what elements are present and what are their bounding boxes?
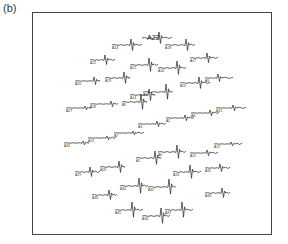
electrode-trace: A9 [205,74,233,83]
electrode-trace: A19 [105,72,130,83]
electrode-label: A14 [130,96,136,100]
electrode-label: A30 [120,187,126,191]
electrode-label: A18 [165,46,171,50]
electrode-label: A10 [180,84,186,88]
electrode-label: A29 [75,173,81,177]
electrode-trace: A31 [205,164,230,173]
electrode-label: A22 [90,61,96,65]
electrode-label: A12 [214,145,220,149]
electrode-label: A5 [122,103,126,107]
electrode-trace: A12 [214,142,242,149]
electrode-trace: A28 [100,161,125,172]
electrode-label: A2 [166,119,170,123]
electrode-trace: A23 [142,32,172,43]
electrode-trace: A26 [90,101,118,109]
electrode-label: A9 [205,79,209,83]
electrode-label: A34 [142,217,148,221]
electrode-label: A1 [136,159,140,163]
electrode-label: A21 [130,66,136,70]
electrode-trace: A26 [64,141,89,148]
electrode-label: A27 [66,109,72,113]
electrode-label: A26 [64,144,70,148]
electrode-label: A25 [88,139,94,143]
electrode-label: A37 [165,211,171,215]
electrode-label: A15 [216,109,222,113]
electrode-label: A24 [112,46,118,50]
electrode-label: A35 [115,211,121,215]
electrode-label: A19 [105,79,111,83]
electrode-trace: A25 [88,136,116,143]
electrode-trace: A13 [173,165,201,178]
electrode-label: A16 [158,69,164,73]
electrode-label: A4 [143,93,147,97]
electrode-label: A8 [191,114,195,118]
electrode-trace: A6 [158,145,186,158]
electrode-trace: A37 [165,202,193,217]
electrode-label: A11 [190,154,196,158]
electrode-trace: A15 [216,105,246,113]
electrode-trace: A8 [191,110,219,118]
electrode-label: A23 [147,34,160,41]
electrode-label: A20 [75,82,81,86]
electrode-trace: A27 [66,106,91,113]
electrode-label: A32 [148,188,154,192]
electrode-trace: A7 [114,131,144,138]
electrode-trace: A16 [158,61,186,74]
electrode-trace: A4 [143,84,173,99]
electrode-trace: A22 [90,55,115,65]
electrode-trace: A20 [75,77,100,86]
electrode-trace: A24 [112,39,142,50]
electrode-trace: A3 [138,121,166,129]
electrode-label: A3 [138,125,142,129]
electrode-label: A13 [173,173,179,177]
electrode-label: A26 [90,105,96,109]
electrode-trace: A32 [148,179,176,194]
electrode-trace: A33 [205,188,230,198]
electrode-trace: A21 [130,58,158,71]
electrode-label: A28 [100,168,106,172]
electrode-trace: A35 [115,202,143,217]
electrode-trace: A29 [75,167,100,177]
electrode-trace: A36 [92,190,117,200]
electrode-waveform-array: A24A23A18A22A21A16A17A20A19A14A10A9A27A2… [0,0,288,244]
electrode-label: A33 [205,194,211,198]
electrode-trace: A17 [190,53,218,63]
electrode-label: A7 [114,134,118,138]
electrode-label: A31 [205,169,211,173]
electrode-label: A36 [92,196,98,200]
electrode-trace: A2 [166,115,194,123]
electrode-trace: A11 [190,150,218,158]
electrode-trace: A18 [165,39,195,50]
electrode-label: A6 [158,153,162,157]
electrode-trace: A30 [120,178,148,193]
electrode-label: A17 [190,59,196,63]
